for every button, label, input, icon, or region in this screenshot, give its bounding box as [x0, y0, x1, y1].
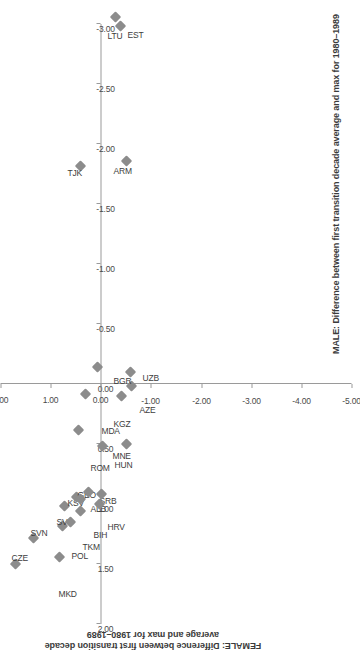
- data-point: [80, 388, 91, 399]
- data-point: [53, 551, 64, 562]
- y-axis-tick-label: -5.00: [342, 396, 360, 406]
- y-axis-tick-label: 2.00: [0, 395, 8, 405]
- x-axis-tick-label: -1.00: [96, 264, 114, 274]
- data-point-label: TJK: [67, 168, 82, 178]
- x-axis-tick-label: 1.50: [97, 564, 113, 574]
- data-point-label: MNE: [112, 451, 130, 461]
- data-point-label: CZE: [11, 553, 27, 563]
- y-axis-tick-label: -4.00: [292, 396, 310, 406]
- x-axis-tick-label: -1.50: [96, 204, 114, 214]
- y-axis-tick: [150, 384, 151, 388]
- data-point: [116, 390, 127, 401]
- data-point-label: TKM: [82, 542, 99, 552]
- y-axis-tick-label: -3.00: [242, 396, 260, 406]
- y-axis-tick: [50, 384, 51, 388]
- data-point-label: KGZ: [113, 419, 130, 429]
- data-point-label: POL: [71, 551, 87, 561]
- y-axis-tick: [0, 384, 1, 388]
- y-axis-tick: [100, 384, 101, 388]
- data-point-label: HUN: [114, 460, 132, 470]
- y-axis-title: FEMALE: Difference between first transit…: [28, 628, 278, 651]
- data-point-label: ROM: [90, 462, 109, 472]
- y-axis-tick: [301, 384, 302, 388]
- y-axis-title-wrapper: FEMALE: Difference between first transit…: [8, 628, 278, 651]
- y-axis-tick-label: 0.00: [92, 395, 108, 405]
- data-point-label: AZE: [139, 405, 155, 415]
- data-point: [121, 155, 132, 166]
- plot-area: 2.001.501.000.500.00-0.50-1.00-1.50-2.00…: [0, 24, 351, 624]
- y-axis-tick: [351, 384, 352, 388]
- data-point-label: LTU: [107, 32, 122, 42]
- y-axis-tick-label: -2.00: [191, 396, 209, 406]
- data-point-label: MKD: [58, 589, 76, 599]
- data-point-label: BIH: [93, 530, 107, 540]
- data-point: [115, 21, 126, 32]
- x-axis-tick-label: -2.00: [96, 144, 114, 154]
- data-point-label: SVN: [30, 528, 47, 538]
- x-axis-tick-label: -0.50: [96, 324, 114, 334]
- x-axis-title: MALE: Difference between first transitio…: [330, 14, 340, 354]
- x-axis-tick-label: 0.00: [97, 384, 113, 394]
- data-point-label: EST: [127, 30, 143, 40]
- data-point-label: ARM: [113, 166, 131, 176]
- data-point-label: BGR: [113, 376, 131, 386]
- y-axis-tick: [251, 384, 252, 388]
- data-point-label: HRV: [107, 522, 124, 532]
- y-axis-line: [0, 383, 351, 384]
- data-point: [121, 438, 132, 449]
- x-axis-tick-label: -2.50: [96, 84, 114, 94]
- y-axis-tick: [201, 384, 202, 388]
- y-axis-tick-label: 1.00: [42, 395, 58, 405]
- data-point: [72, 424, 83, 435]
- data-point-label: UZB: [142, 373, 158, 383]
